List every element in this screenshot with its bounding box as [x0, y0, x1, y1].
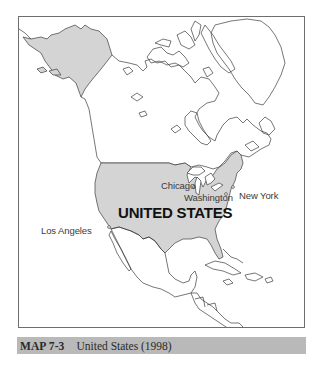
alaska-region — [23, 25, 112, 97]
canada-region — [81, 55, 271, 169]
greenland-region — [211, 19, 285, 105]
north-america-map — [19, 17, 305, 328]
city-label-los-angeles: Los Angeles — [41, 226, 92, 236]
country-label-united-states: UNITED STATES — [118, 205, 232, 220]
city-label-chicago: Chicago — [161, 181, 195, 191]
city-label-washington: Washington — [184, 193, 233, 203]
city-label-new-york: New York — [239, 191, 278, 201]
los-angeles-marker — [108, 226, 111, 229]
map-caption: MAP 7-3 United States (1998) — [17, 337, 306, 354]
caption-number: MAP 7-3 — [20, 340, 64, 352]
caption-title: United States (1998) — [76, 340, 171, 352]
new-york-marker — [232, 186, 235, 189]
map-frame: Chicago Washington New York Los Angeles … — [18, 16, 305, 328]
